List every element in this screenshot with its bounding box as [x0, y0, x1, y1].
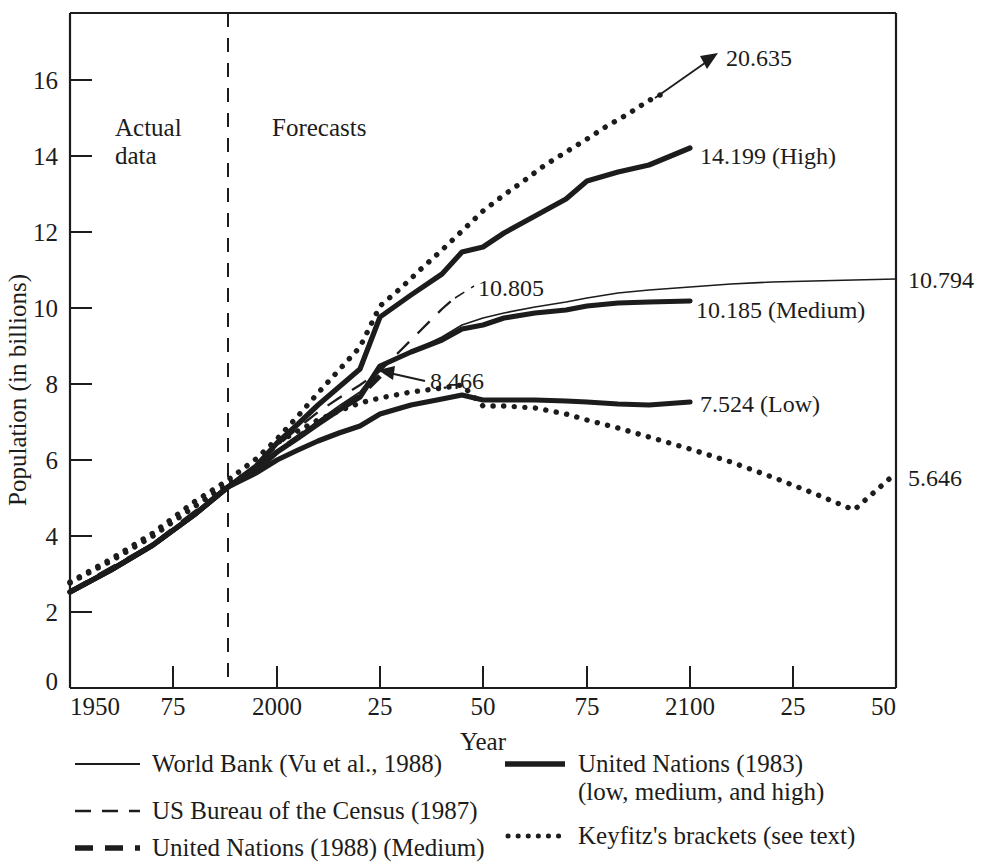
annotation-10185-label: 10.185 (Medium)	[696, 297, 865, 323]
annotation-20635-leader	[655, 58, 712, 98]
y-tick-label-6: 6	[46, 447, 59, 474]
y-tick-label-16: 16	[33, 67, 58, 94]
series-un1983-medium	[70, 301, 690, 592]
x-tick-label-2075: 75	[575, 693, 600, 720]
zone-label-actual-line2: data	[115, 142, 157, 169]
y-axis-title: Population (in billions)	[4, 274, 32, 506]
y-tick-label-14: 14	[33, 143, 59, 170]
legend-label-un-1983-line2: (low, medium, and high)	[578, 778, 824, 806]
series-us-census	[70, 295, 458, 592]
y-tick-label-8: 8	[46, 371, 59, 398]
y-axis-tick-labels: 0 2 4 6 8 10 12 14 16	[33, 67, 59, 695]
x-tick-label-1975: 75	[161, 693, 186, 720]
x-tick-label-2000: 2000	[252, 693, 302, 720]
zone-label-actual-line1: Actual	[115, 114, 182, 141]
annotation-8466-label: 8.466	[430, 368, 484, 394]
x-axis-title: Year	[460, 728, 507, 755]
zone-labels: Actual data Forecasts	[115, 114, 366, 169]
x-tick-label-2125: 25	[781, 693, 806, 720]
annotation-10805-label: 10.805	[478, 275, 544, 301]
annotation-5646-label: 5.646	[908, 465, 962, 491]
annotation-14199: 14.199 (High)	[700, 143, 836, 169]
annotations-group: 20.635 14.199 (High) 10.805 10.185 (Medi…	[378, 45, 974, 491]
annotation-8466: 8.466	[378, 366, 484, 394]
annotation-14199-label: 14.199 (High)	[700, 143, 836, 169]
x-axis-ticks	[70, 666, 896, 688]
population-forecast-figure: 0 2 4 6 8 10 12 14 16 1950 75 2000	[0, 0, 987, 866]
legend-label-un-1983-line1: United Nations (1983)	[578, 750, 803, 778]
x-tick-label-2050: 50	[471, 693, 496, 720]
annotation-10185: 10.185 (Medium)	[696, 297, 865, 323]
x-axis-tick-labels: 1950 75 2000 25 50 75 2100 25 50	[70, 693, 896, 720]
y-tick-label-4: 4	[46, 523, 59, 550]
annotation-10794-label: 10.794	[908, 267, 974, 293]
annotation-20635-arrowhead	[700, 53, 718, 69]
data-series-group	[70, 95, 896, 592]
legend-label-world-bank: World Bank (Vu et al., 1988)	[152, 750, 442, 778]
annotation-7524-label: 7.524 (Low)	[700, 391, 820, 417]
legend-item-un-1983[interactable]: United Nations (1983) (low, medium, and …	[505, 750, 824, 806]
x-tick-label-1950: 1950	[70, 693, 120, 720]
legend-item-world-bank[interactable]: World Bank (Vu et al., 1988)	[75, 750, 442, 778]
axes-frame	[70, 13, 896, 688]
x-tick-label-2025: 25	[368, 693, 393, 720]
legend-item-un-1988[interactable]: United Nations (1988) (Medium)	[75, 834, 485, 862]
zone-label-forecasts: Forecasts	[272, 114, 366, 141]
y-axis-ticks	[70, 80, 92, 688]
legend-item-keyfitz[interactable]: Keyfitz's brackets (see text)	[508, 822, 855, 850]
annotation-20635: 20.635	[655, 45, 792, 98]
annotation-10805: 10.805	[455, 275, 544, 301]
y-tick-label-2: 2	[46, 599, 59, 626]
legend-item-us-census[interactable]: US Bureau of the Census (1987)	[75, 797, 478, 825]
legend-label-un-1988: United Nations (1988) (Medium)	[152, 834, 485, 862]
annotation-7524: 7.524 (Low)	[700, 391, 820, 417]
annotation-20635-label: 20.635	[726, 45, 792, 71]
series-keyfitz-upper	[70, 95, 660, 582]
y-tick-label-10: 10	[33, 295, 58, 322]
y-tick-label-0: 0	[46, 668, 59, 695]
legend-label-us-census: US Bureau of the Census (1987)	[152, 797, 478, 825]
legend-label-keyfitz: Keyfitz's brackets (see text)	[578, 822, 855, 850]
y-tick-label-12: 12	[33, 219, 58, 246]
x-tick-label-2150: 50	[871, 693, 896, 720]
x-tick-label-2100: 2100	[665, 693, 715, 720]
annotation-10805-leader	[455, 286, 474, 298]
population-forecast-chart: 0 2 4 6 8 10 12 14 16 1950 75 2000	[0, 0, 987, 866]
legend: World Bank (Vu et al., 1988) US Bureau o…	[75, 750, 855, 862]
